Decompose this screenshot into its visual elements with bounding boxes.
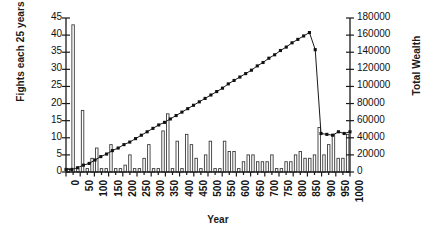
bar	[304, 158, 306, 172]
bar	[81, 110, 83, 172]
bar	[190, 145, 192, 172]
bar	[327, 145, 329, 172]
line-marker	[331, 134, 334, 137]
line-marker	[134, 137, 137, 140]
wealth-line	[66, 33, 350, 170]
line-marker	[175, 114, 178, 117]
line-marker	[163, 121, 166, 124]
line-marker	[140, 134, 143, 137]
line-marker	[302, 34, 305, 37]
bar	[72, 25, 74, 172]
bar	[143, 158, 145, 172]
line-marker	[76, 166, 79, 169]
bar	[261, 162, 263, 172]
line-marker	[308, 31, 311, 34]
bar	[285, 162, 287, 172]
bar	[313, 155, 315, 172]
plot-area	[0, 0, 436, 234]
bar	[323, 155, 325, 172]
line-marker	[82, 164, 85, 167]
bar	[252, 155, 254, 172]
bar	[204, 155, 206, 172]
bar	[167, 114, 169, 172]
bar	[294, 155, 296, 172]
line-marker	[105, 152, 108, 155]
line-marker	[314, 48, 317, 51]
line-marker	[93, 158, 96, 161]
line-marker	[117, 146, 120, 149]
bar	[242, 162, 244, 172]
line-marker	[250, 69, 253, 72]
line-marker	[337, 130, 340, 133]
line-marker	[180, 111, 183, 114]
line-marker	[186, 107, 189, 110]
bar	[91, 158, 93, 172]
bar	[228, 151, 230, 172]
bar	[266, 162, 268, 172]
bar	[247, 155, 249, 172]
line-marker	[244, 72, 247, 75]
line-marker	[215, 90, 218, 93]
line-marker	[296, 38, 299, 41]
line-marker	[99, 155, 102, 158]
bar	[337, 158, 339, 172]
bar	[195, 158, 197, 172]
bar	[342, 158, 344, 172]
line-marker	[122, 143, 125, 146]
bar	[223, 141, 225, 172]
line-marker	[70, 168, 73, 171]
bar	[256, 162, 258, 172]
line-marker	[88, 162, 91, 165]
bar	[271, 155, 273, 172]
bar	[346, 134, 348, 172]
line-marker	[221, 87, 224, 90]
bar	[233, 151, 235, 172]
line-marker	[233, 79, 236, 82]
line-marker	[128, 141, 131, 144]
line-series	[64, 31, 351, 171]
line-marker	[262, 61, 265, 64]
line-marker	[290, 41, 293, 44]
line-marker	[151, 127, 154, 130]
line-marker	[111, 149, 114, 152]
line-marker	[198, 100, 201, 103]
bar-series	[67, 25, 349, 172]
bar	[176, 141, 178, 172]
bar	[290, 162, 292, 172]
line-marker	[238, 75, 241, 78]
line-marker	[256, 64, 259, 67]
line-marker	[204, 97, 207, 100]
bar	[124, 165, 126, 172]
line-marker	[227, 82, 230, 85]
bar	[148, 145, 150, 172]
line-marker	[192, 104, 195, 107]
bar	[110, 145, 112, 172]
line-marker	[343, 132, 346, 135]
chart-container: Fights each 25 years Total Wealth Year 0…	[0, 0, 436, 234]
bar	[332, 134, 334, 172]
line-marker	[279, 49, 282, 52]
bar	[129, 155, 131, 172]
line-marker	[273, 53, 276, 56]
line-marker	[319, 132, 322, 135]
line-marker	[285, 46, 288, 49]
bar	[209, 141, 211, 172]
line-marker	[267, 57, 270, 60]
line-marker	[325, 133, 328, 136]
line-marker	[146, 130, 149, 133]
bar	[185, 134, 187, 172]
bar	[309, 158, 311, 172]
bar	[162, 131, 164, 172]
line-marker	[209, 93, 212, 96]
bar	[299, 151, 301, 172]
line-marker	[169, 117, 172, 120]
line-marker	[157, 123, 160, 126]
